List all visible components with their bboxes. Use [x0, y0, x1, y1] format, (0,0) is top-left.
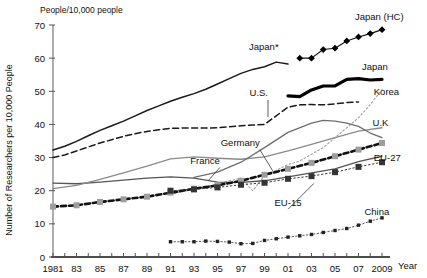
data-point: [333, 229, 336, 232]
y-tick-label: 10: [34, 218, 45, 229]
x-tick-label: 05: [330, 263, 341, 274]
data-point: [332, 153, 338, 159]
data-point: [296, 55, 303, 62]
data-point: [332, 45, 339, 52]
y-tick-label: 0: [40, 252, 45, 263]
data-point: [74, 202, 80, 208]
y-tick-label: 50: [34, 86, 45, 97]
series-label-japan-: Japan*: [249, 41, 279, 52]
series-line: [53, 102, 359, 158]
x-tick-label: 01: [283, 263, 294, 274]
data-point: [356, 147, 362, 153]
series-label-china: China: [364, 206, 390, 217]
data-point: [121, 196, 127, 202]
x-tick-label: 93: [189, 263, 200, 274]
x-axis-title: Year: [398, 260, 417, 271]
data-point: [285, 166, 291, 172]
x-tick-label: 91: [165, 263, 176, 274]
y-tick-label: 30: [34, 152, 45, 163]
data-point: [168, 188, 174, 194]
data-point: [379, 26, 386, 33]
data-point: [332, 169, 338, 175]
data-point: [322, 231, 325, 234]
data-point: [275, 237, 278, 240]
y-tick-label: 70: [34, 20, 45, 31]
data-point: [251, 242, 254, 245]
data-point: [169, 240, 172, 243]
data-point: [144, 194, 150, 200]
x-tick-label: 85: [95, 263, 106, 274]
series-label-korea: Korea: [374, 86, 400, 97]
series-label-eu-15: EU-15: [275, 197, 302, 208]
y-axis-title: Number of Researchers per 10,000 People: [4, 64, 14, 236]
data-point: [309, 160, 315, 166]
data-point: [262, 172, 268, 178]
data-point: [204, 239, 207, 242]
x-tick-label: 07: [353, 263, 364, 274]
annotation-leader-line: [260, 150, 273, 171]
series-japan-hc-: [296, 26, 385, 61]
series-label-germany: Germany: [221, 137, 260, 148]
x-tick-label: 1981: [42, 263, 63, 274]
data-point: [216, 240, 219, 243]
data-point: [356, 164, 362, 170]
data-point: [367, 30, 374, 37]
data-point: [50, 204, 56, 210]
series-label-france: France: [190, 155, 220, 166]
series-label-u-k: U.K: [373, 117, 390, 128]
x-tick-label: 83: [71, 263, 82, 274]
data-point: [192, 240, 195, 243]
data-point: [285, 176, 291, 182]
data-point: [239, 242, 242, 245]
x-tick-label: 2009: [371, 263, 392, 274]
data-point: [215, 184, 221, 190]
series-label-eu-27: EU-27: [374, 152, 401, 163]
x-tick-label: 89: [142, 263, 153, 274]
data-point: [369, 220, 372, 223]
y-tick-label: 20: [34, 185, 45, 196]
series-china: [169, 216, 384, 245]
data-point: [309, 173, 315, 179]
data-point: [345, 227, 348, 230]
chart-canvas: People/10,000 peopleNumber of Researcher…: [0, 0, 427, 278]
data-point: [97, 199, 103, 205]
x-tick-label: 95: [212, 263, 223, 274]
data-point: [262, 180, 268, 186]
data-point: [379, 140, 385, 146]
y-tick-label: 60: [34, 53, 45, 64]
data-point: [228, 240, 231, 243]
data-point: [286, 235, 289, 238]
series-japan: [288, 79, 382, 97]
series-line: [171, 162, 383, 191]
data-point: [263, 239, 266, 242]
x-tick-label: 97: [236, 263, 247, 274]
data-point: [298, 234, 301, 237]
x-tick-label: 87: [118, 263, 129, 274]
x-tick-label: 03: [306, 263, 317, 274]
unit-label: People/10,000 people: [40, 5, 123, 15]
series-line: [288, 79, 382, 97]
data-point: [355, 34, 362, 41]
series-label-japan-hc-: Japan (HC): [355, 11, 404, 22]
data-point: [238, 182, 244, 188]
series-label-u-s-: U.S.: [250, 87, 268, 98]
data-point: [310, 233, 313, 236]
data-point: [357, 223, 360, 226]
series-u-s-: [53, 102, 359, 158]
data-point: [191, 186, 197, 192]
y-tick-label: 40: [34, 119, 45, 130]
series-label-japan: Japan: [362, 61, 388, 72]
researchers-line-chart: People/10,000 peopleNumber of Researcher…: [0, 0, 427, 278]
data-point: [343, 38, 350, 45]
x-tick-label: 99: [259, 263, 270, 274]
data-point: [181, 240, 184, 243]
